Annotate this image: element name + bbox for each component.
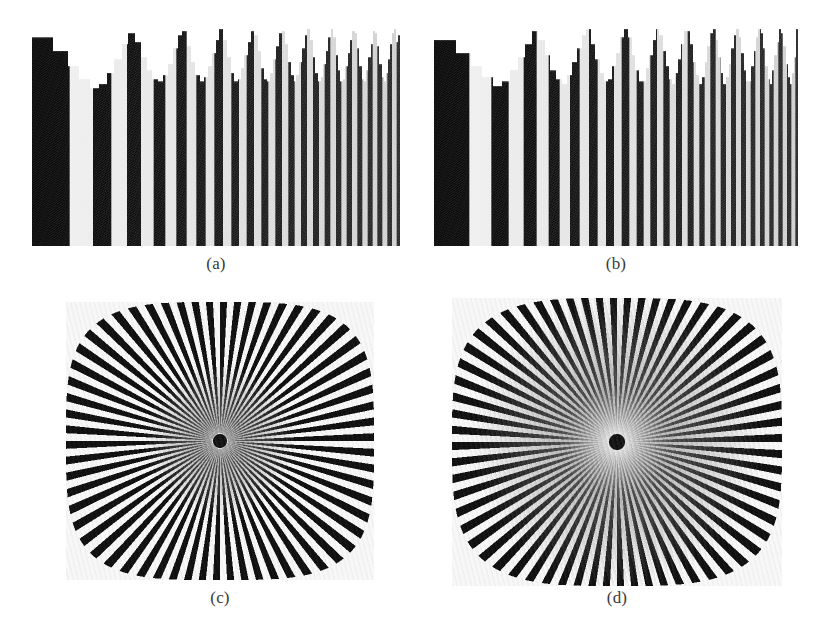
panel-d-caption: (d) xyxy=(452,588,782,608)
panel-a xyxy=(32,26,400,246)
panel-b-caption: (b) xyxy=(434,254,798,274)
panel-c-caption: (c) xyxy=(66,588,374,608)
figure-root: (a) (b) (c) (d) xyxy=(0,0,823,640)
panel-a-caption: (a) xyxy=(32,254,400,274)
chirp-bar-pattern-a xyxy=(32,26,400,246)
radial-spoke-star-c xyxy=(66,302,374,580)
panel-b xyxy=(434,26,798,246)
chirp-bar-pattern-b xyxy=(434,26,798,246)
radial-spoke-star-d xyxy=(452,298,782,586)
panel-c xyxy=(66,302,374,580)
panel-d xyxy=(452,298,782,586)
